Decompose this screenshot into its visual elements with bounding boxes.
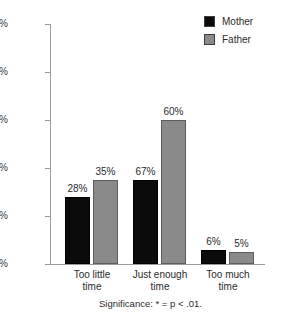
chart-footnote: Significance: * = p < .01.: [0, 298, 301, 310]
y-axis-label-100: 100%: [0, 19, 8, 29]
bar-value-father-too-much-time: 5%: [234, 239, 248, 249]
y-axis-line: [50, 24, 51, 265]
bar-father-too-little-time: 35%: [93, 180, 118, 264]
x-axis-line: [50, 264, 265, 265]
y-axis-label-80: 80%: [0, 67, 8, 77]
plot-area: 100% 80% 60% 40% 20% 0% 28% 35% 67% 60%: [50, 24, 265, 265]
y-axis-label-20: 20%: [0, 211, 8, 221]
y-tick-0: [45, 264, 51, 265]
bar-group-too-much-time: 6% 5%: [194, 24, 261, 264]
y-tick-60: [45, 120, 51, 121]
y-tick-40: [45, 168, 51, 169]
bar-value-mother-too-much-time: 6%: [206, 237, 220, 247]
y-axis-label-60: 60%: [0, 115, 8, 125]
x-axis-label-too-much-time-line1: Too much: [185, 269, 271, 281]
bar-value-mother-too-little-time: 28%: [67, 184, 87, 194]
bar-father-too-much-time: 5%: [229, 252, 254, 264]
bar-group-too-little-time: 28% 35%: [58, 24, 125, 264]
y-tick-20: [45, 216, 51, 217]
bar-mother-too-much-time: 6%: [201, 250, 226, 264]
bar-mother-just-enough-time: 67%: [133, 180, 158, 264]
bar-chart-figure: Mother Father 100% 80% 60% 40% 20% 0% 28…: [0, 0, 301, 316]
y-axis-label-0: 0%: [0, 259, 8, 269]
x-axis-label-too-much-time: Too much time: [185, 269, 271, 293]
bar-value-mother-just-enough-time: 67%: [135, 167, 155, 177]
y-axis-label-40: 40%: [0, 163, 8, 173]
x-axis-label-too-much-time-line2: time: [185, 281, 271, 293]
y-tick-100: [45, 24, 51, 25]
y-tick-80: [45, 72, 51, 73]
bar-value-father-too-little-time: 35%: [95, 167, 115, 177]
bar-mother-too-little-time: 28%: [65, 197, 90, 264]
bar-father-just-enough-time: 60%: [161, 120, 186, 264]
bar-group-just-enough-time: 67% 60%: [126, 24, 193, 264]
bar-value-father-just-enough-time: 60%: [163, 107, 183, 117]
